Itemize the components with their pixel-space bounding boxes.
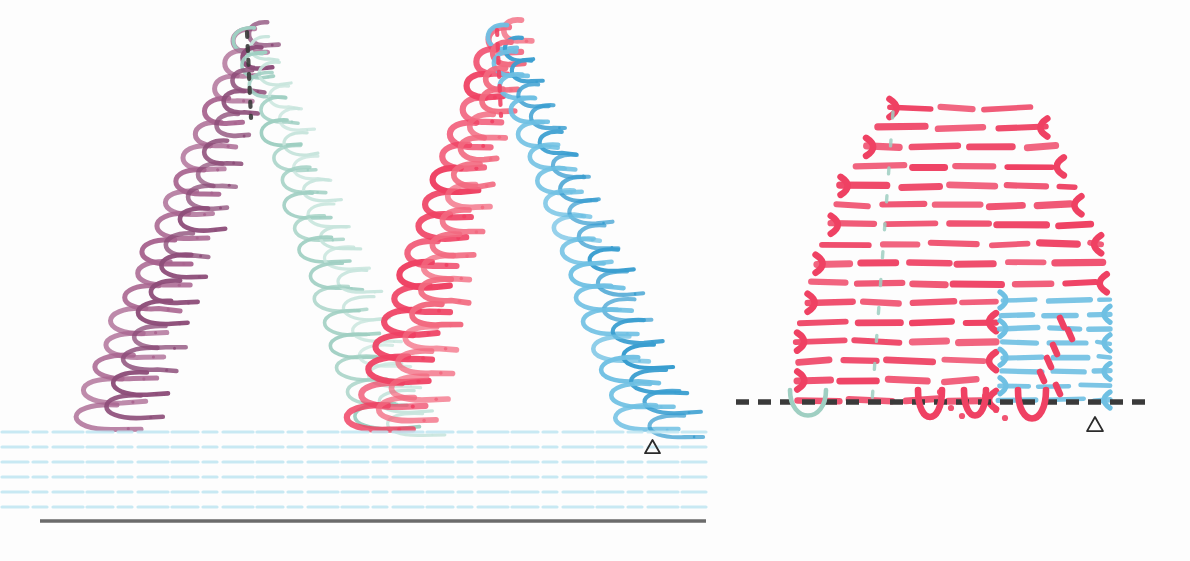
blue-block-dash (1090, 314, 1111, 315)
coil-dot (434, 397, 438, 401)
coil-dot (199, 255, 202, 258)
blue-block-dash (1002, 342, 1036, 343)
dome-dash (912, 146, 958, 147)
coil-dot (196, 236, 199, 239)
dome-dash (1037, 204, 1070, 206)
coil-dot (228, 184, 231, 187)
dome-turn-hook (989, 352, 996, 370)
coil-dot (489, 157, 493, 161)
dome-dash (836, 204, 867, 206)
coil-dot (152, 355, 155, 358)
dome-dash (888, 379, 927, 381)
dome-dash (1059, 187, 1075, 188)
coil-stroke (421, 279, 469, 303)
dome-turn-hook (1100, 274, 1107, 292)
coil-dot (316, 191, 318, 193)
coil-stroke (613, 320, 663, 343)
dome-dash (1007, 185, 1046, 186)
dome-dash (844, 360, 877, 361)
blue-block-dash (1002, 371, 1042, 372)
coil-stroke (649, 415, 703, 437)
blue-block-dash (1001, 315, 1032, 316)
coil-stroke (188, 186, 227, 209)
coil-dot (460, 277, 464, 281)
dome-dash (799, 360, 830, 363)
coil-dot (509, 88, 513, 92)
baseline-speck (948, 405, 954, 411)
coil-dot (267, 76, 269, 78)
blue-block-dash (1053, 371, 1084, 372)
coil-dot (232, 162, 235, 165)
dome-dash (913, 284, 946, 285)
blue-block-dash (1003, 357, 1042, 358)
red-overlay-dash (1060, 318, 1064, 327)
dome-dash (984, 107, 1031, 110)
coil-dot (525, 40, 529, 44)
dome-turn-hook (1057, 157, 1064, 175)
coil-dot (219, 206, 222, 209)
red-overlay-dash (1053, 345, 1057, 354)
coil-dot (178, 284, 181, 287)
coil-dot (467, 190, 471, 194)
coil-dot (214, 229, 217, 232)
coil-dot (634, 293, 637, 296)
dome-dash (931, 243, 977, 244)
coil-dot (306, 129, 308, 131)
dome-dash (1065, 282, 1095, 283)
coil-dot (142, 377, 145, 380)
coil-dot (411, 405, 415, 409)
coil-dot (249, 111, 252, 114)
dome-dash (1059, 224, 1091, 226)
dome-dash (938, 127, 983, 129)
coil-dot (475, 230, 479, 234)
coil-dot (167, 308, 170, 311)
coil-dot (439, 371, 443, 375)
baseline-speck (982, 393, 988, 399)
coil-dot (155, 392, 158, 395)
red-overlay-dash (1056, 385, 1060, 394)
coil-dot (444, 347, 448, 351)
coil-dot (638, 359, 641, 362)
coil-dot (243, 134, 246, 137)
coil-dot (127, 427, 130, 430)
coil-dot (458, 300, 462, 304)
coil-dot (493, 96, 497, 100)
coil-dot (431, 434, 433, 436)
coil-dot (182, 262, 185, 265)
dome-dash (957, 264, 993, 265)
coil-stroke (134, 326, 186, 348)
dome-dash (989, 205, 1022, 206)
coil-dot (422, 419, 426, 423)
red-overlay-dash (1068, 330, 1072, 339)
coil-dot (173, 347, 176, 350)
dome-dash (1055, 262, 1103, 263)
dome-dash (912, 341, 946, 342)
coil-dot (178, 322, 181, 325)
coil-dot (265, 67, 268, 70)
blue-block-dash (1049, 300, 1091, 301)
blue-block-dash (1081, 385, 1110, 386)
coil-dot (417, 379, 421, 383)
coil-stroke (113, 372, 168, 395)
coil-dot (256, 90, 259, 93)
coil-dot (165, 369, 168, 372)
dome-dash (909, 263, 949, 264)
dome-dash (944, 379, 976, 382)
coil-dot (449, 324, 453, 328)
coil-stroke (443, 210, 483, 232)
baseline-speck (993, 407, 999, 413)
coil-dot (291, 121, 293, 123)
coil-dot (154, 331, 157, 334)
dome-dash (992, 244, 1028, 246)
figure-canvas (0, 0, 1190, 561)
coil-dot (437, 309, 441, 313)
coil-dot (271, 44, 274, 47)
dome-turn-hook (1074, 196, 1081, 214)
coil-dot (693, 436, 696, 439)
coil-dot (242, 99, 245, 102)
coil-dot (439, 285, 443, 289)
dome-dash (1040, 243, 1078, 244)
dome-dash (800, 322, 846, 324)
coil-dot (227, 145, 230, 148)
triangle-marker-right[interactable] (1087, 417, 1103, 431)
